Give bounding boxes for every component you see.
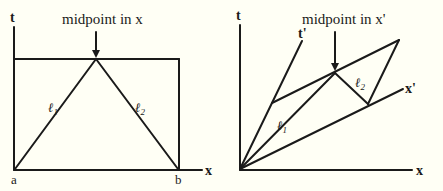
t-prime-axis	[240, 41, 302, 169]
x-prime-label: x'	[405, 81, 416, 96]
right-l1-label: ℓ1	[277, 118, 287, 135]
left-l2-label: ℓ2	[135, 100, 145, 117]
right-l2-label: ℓ2	[355, 75, 365, 92]
right-diagram: midpoint in x' t x t' x' ℓ1 ℓ2	[236, 8, 423, 178]
point-a-label: a	[11, 172, 17, 187]
point-b-label: b	[175, 172, 182, 187]
x-prime-axis	[240, 89, 403, 169]
left-x-label: x	[205, 163, 212, 178]
left-diagram: midpoint in x t x a b ℓ1 ℓ2	[10, 10, 212, 187]
t-prime-label: t'	[298, 26, 307, 41]
left-l1-label: ℓ1	[48, 100, 58, 117]
right-x-label: x	[416, 163, 423, 178]
left-t-label: t	[10, 10, 15, 25]
left-caption: midpoint in x	[62, 11, 143, 27]
right-caption: midpoint in x'	[302, 11, 386, 27]
parallelogram-right	[368, 40, 399, 104]
spacetime-diagrams: midpoint in x t x a b ℓ1 ℓ2 midpoint in …	[0, 0, 443, 191]
line-l1	[240, 73, 335, 169]
arrow-head-icon	[92, 50, 100, 58]
right-t-label: t	[236, 8, 241, 23]
